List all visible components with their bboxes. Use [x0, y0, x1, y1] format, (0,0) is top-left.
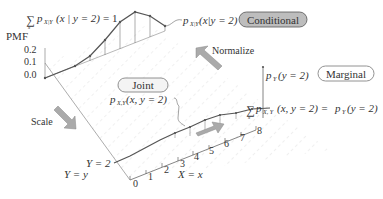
svg-text:0: 0: [133, 178, 138, 189]
svg-text:X, Y: X, Y: [262, 109, 274, 115]
svg-text:p: p: [255, 102, 262, 114]
svg-text:5: 5: [209, 145, 214, 156]
svg-text:(x, y = 2) =: (x, y = 2) =: [277, 102, 328, 115]
conditional-leader: [165, 20, 182, 26]
pmf-diagram: PMF 0.2 0.1 0.0 ∑ x p X|Y (x | y = 2) = …: [0, 0, 383, 199]
conditional-sum-formula: ∑ x p X|Y (x | y = 2) = 1: [26, 12, 117, 30]
svg-text:p: p: [182, 14, 189, 26]
svg-text:1: 1: [148, 171, 153, 182]
y-label: Y = y: [64, 168, 88, 180]
normalize-label: Normalize: [212, 45, 255, 56]
svg-text:X|Y: X|Y: [43, 19, 53, 25]
svg-text:(x, y = 2): (x, y = 2): [126, 93, 167, 106]
pmf-tick-0.1: 0.1: [24, 56, 37, 67]
svg-text:p: p: [334, 102, 341, 114]
svg-text:(y = 2): (y = 2): [347, 102, 378, 115]
svg-text:(x|y = 2): (x|y = 2): [199, 14, 238, 27]
svg-text:= 1: = 1: [103, 12, 117, 24]
svg-text:X|Y: X|Y: [189, 21, 199, 27]
x-label: X = x: [177, 168, 203, 180]
scale-arrow-icon: [54, 106, 76, 129]
conditional-pmf-label: p X|Y (x|y = 2): [182, 14, 238, 27]
svg-text:Y: Y: [342, 109, 346, 115]
marginal-value-label: p Y (y = 2): [265, 69, 309, 82]
svg-text:7: 7: [240, 132, 245, 143]
pmf-tick-0.0: 0.0: [24, 69, 37, 80]
svg-text:p: p: [109, 93, 116, 105]
joint-badge-label: Joint: [132, 79, 153, 91]
svg-text:4: 4: [194, 151, 199, 162]
marginal-badge-label: Marginal: [326, 68, 366, 80]
svg-text:(y = 2): (y = 2): [278, 69, 309, 82]
svg-text:(x | y = 2): (x | y = 2): [56, 12, 100, 25]
pmf-tick-0.2: 0.2: [24, 44, 37, 55]
scale-label: Scale: [31, 116, 53, 127]
svg-text:p: p: [36, 12, 43, 24]
svg-text:X,Y: X,Y: [116, 100, 126, 106]
svg-text:p: p: [265, 69, 272, 81]
pmf-label: PMF: [6, 30, 28, 42]
svg-text:8: 8: [257, 125, 262, 136]
svg-text:6: 6: [224, 138, 229, 149]
svg-text:Y: Y: [273, 76, 277, 82]
marginal-point: [262, 66, 264, 68]
svg-text:2: 2: [164, 164, 169, 175]
conditional-badge-label: Conditional: [247, 14, 299, 26]
y-fixed-label: Y = 2: [86, 157, 111, 169]
